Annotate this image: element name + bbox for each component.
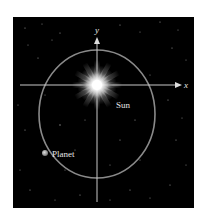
orbit-diagram: y x Sun Planet — [0, 0, 206, 218]
sun-label: Sun — [116, 100, 131, 110]
planet-label: Planet — [52, 149, 75, 159]
space-background — [13, 17, 194, 208]
y-axis-label: y — [94, 25, 99, 35]
x-axis-label: x — [183, 80, 188, 90]
planet-icon — [42, 150, 48, 156]
